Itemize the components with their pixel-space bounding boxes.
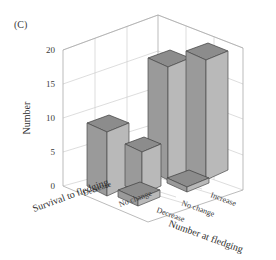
value-axis-tick: 10 [46, 113, 56, 123]
chart-container: 20 15 10 5 0 Number [0, 0, 276, 260]
value-axis-tick: 0 [51, 181, 56, 191]
bar-survival-nochange-fledging-increase [186, 43, 228, 180]
value-axis-tick: 5 [51, 147, 56, 157]
value-axis: 20 15 10 5 0 Number [21, 45, 56, 191]
value-axis-tick: 15 [46, 79, 56, 89]
value-axis-tick: 20 [46, 45, 56, 55]
panel-label: (C) [14, 19, 27, 31]
width-axis-title: Number at fledging [167, 218, 244, 255]
bar-chart-3d: 20 15 10 5 0 Number [0, 0, 276, 260]
value-axis-title: Number [21, 101, 32, 134]
